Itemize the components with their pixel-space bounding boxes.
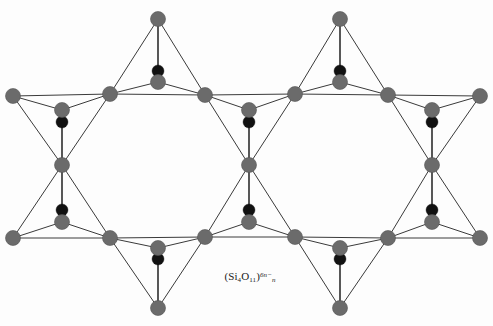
inner-lower-node-4 (333, 241, 348, 256)
bottom-row-node-6 (473, 231, 488, 246)
mid-junction-node-2 (242, 158, 257, 173)
bottom-row-node-1 (6, 231, 21, 246)
top-row-node-5 (381, 88, 396, 103)
formula-element-o: O (241, 270, 249, 282)
top-apex-node-1 (151, 12, 166, 27)
inner-upper-node-2 (151, 75, 166, 90)
bottom-row-node-4 (288, 230, 303, 245)
apex-oxygen-upper-left (56, 116, 68, 128)
inner-lower-node-1 (55, 215, 70, 230)
top-row-node-1 (6, 89, 21, 104)
inner-upper-node-5 (425, 103, 440, 118)
bottom-apex-node-2 (333, 301, 348, 316)
apex-oxygen-lower-right (426, 204, 438, 216)
bottom-row-node-3 (198, 230, 213, 245)
inner-upper-node-1 (55, 103, 70, 118)
top-row-node-2 (103, 87, 118, 102)
apex-oxygen-upper-right (426, 116, 438, 128)
top-apex-node-2 (333, 12, 348, 27)
formula-charge: 6n− (260, 271, 272, 279)
mid-junction-node-1 (55, 158, 70, 173)
mid-junction-node-3 (425, 158, 440, 173)
apex-oxygen-lower-mid (243, 204, 255, 216)
apex-oxygen-upper-mid (243, 116, 255, 128)
inner-upper-node-3 (242, 103, 257, 118)
inner-lower-node-3 (242, 215, 257, 230)
bottom-apex-node-1 (151, 301, 166, 316)
inner-lower-node-2 (151, 241, 166, 256)
bottom-row-node-5 (381, 231, 396, 246)
apex-oxygen-lower-left (56, 204, 68, 216)
inner-lower-node-5 (425, 215, 440, 230)
top-row-node-3 (198, 88, 213, 103)
formula-element-si: Si (228, 270, 237, 282)
top-row-node-4 (288, 87, 303, 102)
top-row-node-6 (473, 89, 488, 104)
inner-upper-node-4 (333, 75, 348, 90)
silicate-structure-figure: (Si4O11)6n−n (0, 0, 493, 326)
formula-chain-subscript: n (272, 276, 276, 284)
chemical-formula-label: (Si4O11)6n−n (205, 270, 295, 284)
bottom-row-node-2 (103, 231, 118, 246)
